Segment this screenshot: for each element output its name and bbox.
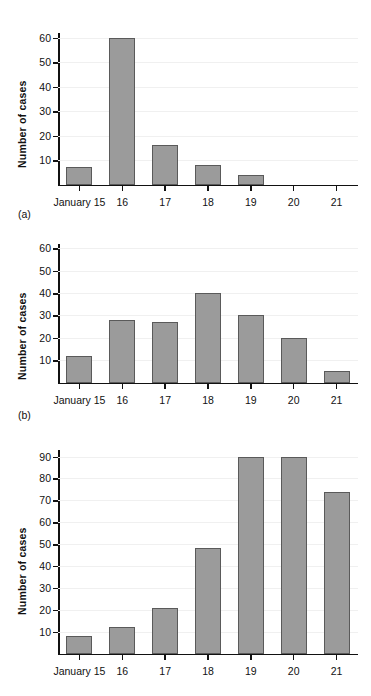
x-axis-tick	[336, 186, 338, 191]
bar	[281, 338, 307, 383]
chart-panel-b: Number of cases 102030405060January 1516…	[0, 232, 371, 432]
plot-area-c: 102030405060708090January 15161718192021	[58, 450, 358, 655]
bar	[324, 492, 350, 654]
y-axis-tick-label: 30	[39, 105, 51, 117]
y-axis-tick-label: 40	[39, 81, 51, 93]
x-axis-tick-label: 21	[331, 665, 343, 677]
bar	[238, 457, 264, 654]
chart-panel-c: Number of cases 102030405060708090Januar…	[0, 432, 371, 696]
gridline	[58, 87, 358, 88]
y-axis-tick	[53, 136, 58, 138]
bar	[195, 165, 221, 185]
x-axis-tick	[122, 384, 124, 389]
plot-area-a: 102030405060January 15161718192021	[58, 33, 358, 186]
bar	[238, 315, 264, 382]
x-axis-tick	[293, 655, 295, 660]
y-axis-tick	[53, 566, 58, 568]
x-axis-tick	[336, 655, 338, 660]
x-axis-tick-label: 17	[159, 665, 171, 677]
y-axis-tick	[53, 62, 58, 64]
gridline	[58, 271, 358, 272]
gridline	[58, 478, 358, 479]
x-axis-tick-label: 19	[245, 196, 257, 208]
y-axis-tick	[53, 632, 58, 634]
y-axis-tick	[53, 315, 58, 317]
y-axis-tick	[53, 457, 58, 459]
bar	[66, 167, 92, 184]
x-axis-tick-label: 19	[245, 665, 257, 677]
gridline	[58, 248, 358, 249]
x-axis-tick-label: 16	[116, 665, 128, 677]
y-axis-tick	[53, 478, 58, 480]
y-axis-tick-label: 60	[39, 32, 51, 44]
x-axis-tick-label: 18	[202, 665, 214, 677]
y-axis-tick	[53, 271, 58, 273]
plot-area-b: 102030405060January 15161718192021	[58, 244, 358, 384]
x-axis-tick-label: 20	[288, 394, 300, 406]
x-axis-tick-label: 18	[202, 394, 214, 406]
gridline	[58, 544, 358, 545]
y-axis-tick	[53, 360, 58, 362]
y-axis-tick	[53, 338, 58, 340]
y-axis-tick	[53, 588, 58, 590]
y-axis-line-c	[58, 450, 60, 655]
x-axis-tick	[122, 186, 124, 191]
bar	[152, 322, 178, 382]
y-axis-tick-label: 20	[39, 130, 51, 142]
y-axis-tick-label: 40	[39, 560, 51, 572]
bar	[109, 627, 135, 653]
bar	[109, 320, 135, 383]
gridline	[58, 160, 358, 161]
x-axis-tick	[164, 384, 166, 389]
x-axis-tick-label: 17	[159, 394, 171, 406]
y-axis-tick-label: 20	[39, 332, 51, 344]
bar	[66, 356, 92, 383]
x-axis-tick-label: 16	[116, 394, 128, 406]
bar	[109, 38, 135, 185]
x-axis-tick	[250, 655, 252, 660]
y-axis-tick-label: 50	[39, 538, 51, 550]
x-axis-tick	[336, 384, 338, 389]
bar	[152, 145, 178, 184]
y-axis-tick-label: 80	[39, 472, 51, 484]
y-axis-tick-label: 90	[39, 451, 51, 463]
gridline	[58, 522, 358, 523]
x-axis-tick	[250, 186, 252, 191]
y-axis-line-a	[58, 33, 60, 186]
panel-label-a: (a)	[18, 208, 31, 220]
panel-label-b: (b)	[18, 409, 31, 421]
y-axis-tick	[53, 500, 58, 502]
x-axis-tick-label: 20	[288, 196, 300, 208]
y-axis-tick-label: 10	[39, 354, 51, 366]
y-axis-tick	[53, 544, 58, 546]
y-axis-tick-label: 60	[39, 516, 51, 528]
chart-panel-a: Number of cases 102030405060January 1516…	[0, 0, 371, 232]
y-axis-tick-label: 30	[39, 309, 51, 321]
bar	[66, 636, 92, 654]
bar	[324, 371, 350, 382]
gridline	[58, 38, 358, 39]
x-axis-tick-label: 18	[202, 196, 214, 208]
y-axis-label-c: Number of cases	[16, 527, 28, 615]
gridline	[58, 457, 358, 458]
gridline	[58, 136, 358, 137]
y-axis-tick	[53, 248, 58, 250]
gridline	[58, 500, 358, 501]
y-axis-tick	[53, 111, 58, 113]
gridline	[58, 62, 358, 63]
y-axis-label-b: Number of cases	[16, 292, 28, 380]
y-axis-label-a: Number of cases	[16, 80, 28, 168]
y-axis-tick	[53, 38, 58, 40]
y-axis-tick-label: 10	[39, 154, 51, 166]
x-axis-tick-label: January 15	[53, 394, 105, 406]
bar	[281, 457, 307, 654]
x-axis-tick-label: 21	[331, 394, 343, 406]
x-axis-tick	[122, 655, 124, 660]
y-axis-tick	[53, 160, 58, 162]
y-axis-tick-label: 60	[39, 242, 51, 254]
y-axis-tick-label: 10	[39, 626, 51, 638]
y-axis-tick	[53, 293, 58, 295]
x-axis-tick-label: 21	[331, 196, 343, 208]
y-axis-tick	[53, 522, 58, 524]
bar	[238, 175, 264, 185]
